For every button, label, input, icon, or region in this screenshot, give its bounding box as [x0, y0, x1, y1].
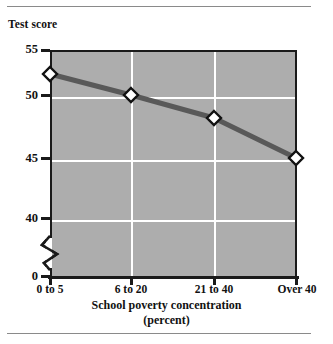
series-line: [50, 74, 296, 158]
figure-container: Test score 55 50 45 40 0 0 to 5 6 to 20 …: [0, 0, 333, 344]
data-point-marker-0to5: [43, 67, 57, 81]
bottom-divider-rule: [7, 333, 311, 334]
y-axis-break-icon: [42, 236, 57, 270]
data-point-marker-6to20: [124, 88, 138, 102]
data-overlay: [0, 0, 333, 344]
